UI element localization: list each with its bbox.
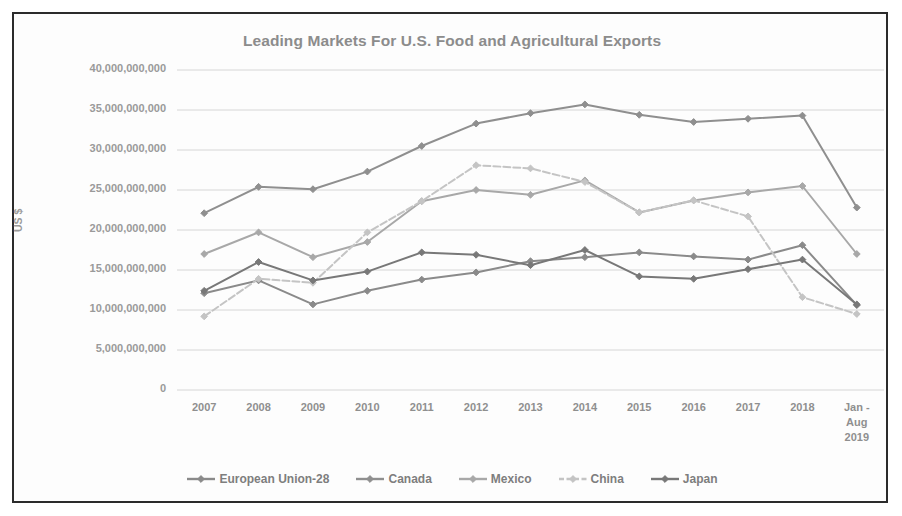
x-axis-tick-label: 2018 (775, 400, 829, 415)
data-point-marker (581, 254, 588, 261)
x-axis-tick-label: 2014 (558, 400, 612, 415)
y-axis-tick-label: 25,000,000,000 (34, 182, 166, 194)
x-axis-tick-label: 2012 (449, 400, 503, 415)
data-point-marker (527, 165, 534, 172)
x-axis-tick-label: 2016 (666, 400, 720, 415)
y-axis-tick-label: 30,000,000,000 (34, 142, 166, 154)
data-point-marker (310, 186, 317, 193)
x-axis-tick-label: 2011 (395, 400, 449, 415)
legend-item-canada[interactable]: Canada (355, 472, 431, 486)
data-point-marker (690, 275, 697, 282)
data-point-marker (745, 256, 752, 263)
data-point-marker (255, 183, 262, 190)
x-axis-tick-label: 2007 (177, 400, 231, 415)
legend-marker-icon (186, 473, 216, 485)
legend-label: Canada (388, 472, 431, 486)
y-axis-tick-label: 5,000,000,000 (34, 342, 166, 354)
data-point-marker (364, 168, 371, 175)
data-point-marker (581, 101, 588, 108)
data-point-marker (690, 197, 697, 204)
y-axis-tick-label: 40,000,000,000 (34, 62, 166, 74)
data-point-marker (418, 249, 425, 256)
legend-marker-icon (355, 473, 385, 485)
data-point-marker (636, 273, 643, 280)
data-point-marker (581, 247, 588, 254)
series-line-european-union-28 (204, 245, 857, 305)
x-axis-tick-label: 2010 (340, 400, 394, 415)
y-axis-tick-label: 15,000,000,000 (34, 262, 166, 274)
x-axis-tick-label: Jan - Aug 2019 (830, 400, 884, 445)
plot-area: US $ 40,000,000,00035,000,000,00030,000,… (14, 14, 890, 505)
data-point-marker (201, 210, 208, 217)
data-point-marker (364, 268, 371, 275)
legend-label: Japan (683, 472, 718, 486)
legend-marker-icon (558, 473, 588, 485)
data-point-marker (690, 119, 697, 126)
legend-marker-icon (458, 473, 488, 485)
y-axis-tick-label: 0 (34, 382, 166, 394)
chart-legend: European Union-28CanadaMexicoChinaJapan (14, 472, 890, 486)
line-chart-svg (14, 14, 890, 505)
x-axis-tick-label: 2015 (612, 400, 666, 415)
legend-label: European Union-28 (219, 472, 329, 486)
data-point-marker (418, 276, 425, 283)
legend-label: China (591, 472, 624, 486)
y-axis-tick-label: 35,000,000,000 (34, 102, 166, 114)
data-point-marker (527, 191, 534, 198)
data-point-marker (473, 120, 480, 127)
data-point-marker (310, 254, 317, 261)
y-axis-tick-label: 10,000,000,000 (34, 302, 166, 314)
x-axis-tick-label: 2008 (231, 400, 285, 415)
legend-marker-icon (650, 473, 680, 485)
data-point-marker (473, 251, 480, 258)
data-point-marker (690, 253, 697, 260)
data-point-marker (745, 266, 752, 273)
data-point-marker (636, 111, 643, 118)
legend-item-japan[interactable]: Japan (650, 472, 718, 486)
data-point-marker (473, 187, 480, 194)
legend-item-european-union-28[interactable]: European Union-28 (186, 472, 329, 486)
data-point-marker (418, 143, 425, 150)
data-point-marker (527, 110, 534, 117)
x-axis-tick-label: 2017 (721, 400, 775, 415)
y-axis-tick-label: 20,000,000,000 (34, 222, 166, 234)
x-axis-tick-label: 2009 (286, 400, 340, 415)
data-point-marker (853, 311, 860, 318)
x-axis-tick-label: 2013 (503, 400, 557, 415)
legend-item-mexico[interactable]: Mexico (458, 472, 532, 486)
data-point-marker (745, 115, 752, 122)
chart-frame: Leading Markets For U.S. Food and Agricu… (12, 12, 888, 503)
legend-item-china[interactable]: China (558, 472, 624, 486)
data-point-marker (201, 251, 208, 258)
data-point-marker (364, 287, 371, 294)
legend-label: Mexico (491, 472, 532, 486)
data-point-marker (310, 301, 317, 308)
data-point-marker (636, 249, 643, 256)
